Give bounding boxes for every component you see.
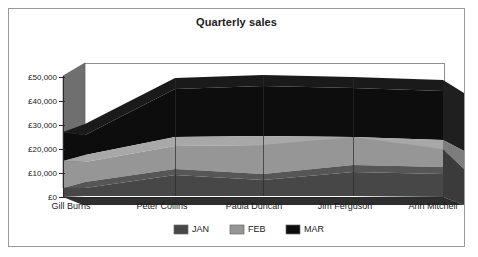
legend-swatch-jan: [174, 225, 188, 234]
x-tick-label-peter-collins: Peter Collins: [136, 201, 188, 211]
legend-label-feb: FEB: [248, 224, 266, 234]
y-tick-label-30000: £30,000: [28, 121, 57, 130]
legend-item-jan[interactable]: JAN: [174, 224, 209, 234]
legend-item-feb[interactable]: FEB: [230, 224, 266, 234]
y-axis: £50,000 £40,000 £30,000 £20,000 £10,000 …: [28, 73, 65, 202]
legend-label-jan: JAN: [192, 224, 209, 234]
y-axis-tick-labels: £50,000 £40,000 £30,000 £20,000 £10,000 …: [28, 73, 57, 202]
chart-plot-area: £50,000 £40,000 £30,000 £20,000 £10,000 …: [9, 9, 466, 248]
legend-label-mar: MAR: [304, 224, 325, 234]
y-tick-label-10000: £10,000: [28, 169, 57, 178]
y-tick-label-40000: £40,000: [28, 97, 57, 106]
legend-item-mar[interactable]: MAR: [286, 224, 325, 234]
x-tick-label-gill-burns: Gill Burns: [51, 201, 91, 211]
x-tick-label-paula-duncan: Paula Duncan: [226, 201, 283, 211]
series-mar-right-face: [443, 80, 464, 151]
y-tick-label-50000: £50,000: [28, 73, 57, 82]
chart-legend: JAN FEB MAR: [174, 224, 325, 234]
legend-swatch-feb: [230, 225, 244, 234]
y-tick-label-20000: £20,000: [28, 145, 57, 154]
x-axis: Gill Burns Peter Collins Paula Duncan Ji…: [51, 197, 464, 211]
chart-frame: Quarterly sales: [8, 8, 465, 247]
legend-swatch-mar: [286, 225, 300, 234]
x-tick-label-ann-mitchell: Ann Mitchell: [408, 201, 457, 211]
x-tick-label-jim-ferguson: Jim Ferguson: [318, 201, 373, 211]
